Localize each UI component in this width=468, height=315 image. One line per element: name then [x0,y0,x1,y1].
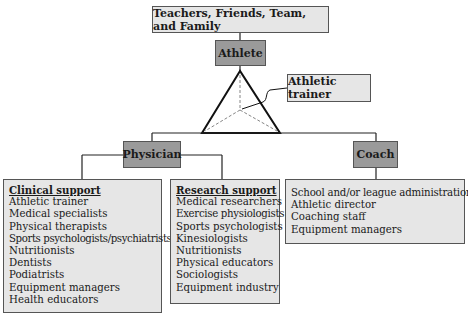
list-item: Health educators [9,294,156,306]
top-support-box: Teachers, Friends, Team, and Family [152,6,329,33]
list-item: Physical educators [176,257,274,269]
coach-support-box: School and/or league administration Athl… [285,179,465,244]
athlete-label: Athlete [218,47,263,60]
physician-box: Physician [123,141,181,168]
research-support-box: Research support Medical researchers Exe… [170,179,280,304]
research-support-heading: Research support [176,184,274,196]
clinical-support-heading: Clinical support [9,184,156,196]
coach-box: Coach [353,141,398,168]
athlete-box: Athlete [215,40,266,66]
list-item: Kinesiologists [176,233,274,245]
athletic-trainer-label: Athletic trainer [288,75,370,101]
clinical-support-box: Clinical support Athletic trainer Medica… [3,179,162,313]
list-item: Sports psychologists/psychiatrists [9,233,156,245]
list-item: Equipment managers [9,282,156,294]
list-item: Exercise physiologists [176,208,274,220]
list-item: Medical researchers [176,196,274,208]
list-item: Coaching staff [291,211,459,223]
list-item: Sports psychologists [176,221,274,233]
list-item: Physical therapists [9,221,156,233]
top-support-label: Teachers, Friends, Team, and Family [153,7,328,33]
list-item: Dentists [9,257,156,269]
coach-label: Coach [357,148,395,161]
list-item: School and/or league administration [291,187,459,199]
list-item: Athletic director [291,199,459,211]
athletic-trainer-box: Athletic trainer [287,74,371,102]
list-item: Sociologists [176,269,274,281]
support-triangle [202,71,280,133]
list-item: Nutritionists [176,245,274,257]
list-item: Nutritionists [9,245,156,257]
list-item: Athletic trainer [9,196,156,208]
list-item: Equipment industry [176,282,274,294]
list-item: Podiatrists [9,269,156,281]
list-item: Medical specialists [9,208,156,220]
physician-label: Physician [122,148,181,161]
list-item: Equipment managers [291,224,459,236]
